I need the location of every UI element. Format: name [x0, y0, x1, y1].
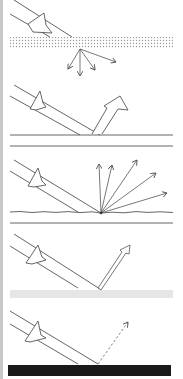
panel-scattering-layer	[10, 0, 173, 76]
panel-specular-reflection	[10, 85, 173, 146]
incident-arrow-icon	[10, 160, 101, 213]
gray-surface	[10, 290, 173, 298]
dotted-layer	[10, 37, 173, 48]
panel-partial-reflection	[10, 234, 173, 298]
rough-surface-line	[10, 212, 173, 214]
incident-arrow-icon	[10, 234, 100, 289]
scattered-arrows-icon	[68, 49, 116, 76]
incident-arrow-icon	[10, 0, 72, 37]
incident-arrow-icon	[10, 85, 100, 135]
diffuse-arrows-icon	[99, 160, 167, 213]
light-reflection-diagram	[0, 0, 183, 379]
black-surface	[8, 365, 171, 376]
panel-absorption	[8, 311, 171, 376]
incident-arrow-icon	[10, 311, 98, 364]
panel-diffuse-reflection	[10, 160, 173, 223]
reflected-arrow-icon	[92, 96, 128, 134]
dashed-reflected-arrow-icon	[98, 322, 128, 364]
reflected-arrow-icon	[98, 245, 130, 290]
